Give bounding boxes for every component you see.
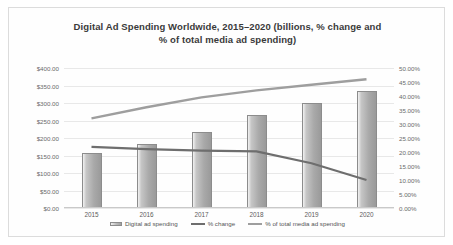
legend-label-percent-change: % change <box>208 220 236 227</box>
chart-container: Digital Ad Spending Worldwide, 2015–2020… <box>8 7 445 237</box>
legend-bar-swatch-icon <box>110 222 122 226</box>
y-axis-right-tick-label: 5.00% <box>399 191 417 198</box>
y-axis-left-tick-label: $300.00 <box>37 100 59 107</box>
y-axis-right-tick-label: 25.00% <box>399 135 420 142</box>
chart-legend: Digital ad spending % change % of total … <box>9 220 446 227</box>
chart-title-line-2: % of total media ad spending) <box>45 33 410 46</box>
y-axis-right-tick-label: 30.00% <box>399 121 420 128</box>
x-axis-tick-label: 2016 <box>139 211 153 218</box>
chart-title-line-1: Digital Ad Spending Worldwide, 2015–2020… <box>45 20 410 33</box>
y-axis-left-tick-label: $0.00 <box>44 205 59 212</box>
legend-item-digital-ad-spending[interactable]: Digital ad spending <box>110 220 178 227</box>
y-axis-left-tick-label: $200.00 <box>37 135 59 142</box>
y-axis-right-tick-label: 45.00% <box>399 79 420 86</box>
line-series-group <box>64 68 394 208</box>
y-axis-left-tick-label: $250.00 <box>37 117 59 124</box>
y-axis-left-tick-label: $150.00 <box>37 152 59 159</box>
line-percent-of-total-media <box>92 79 367 118</box>
plot-area: $0.00$50.00$100.00$150.00$200.00$250.00$… <box>64 68 394 208</box>
x-axis-tick-label: 2017 <box>194 211 208 218</box>
y-axis-right-tick-label: 15.00% <box>399 163 420 170</box>
y-axis-left-tick-label: $400.00 <box>37 65 59 72</box>
y-axis-right-tick-label: 10.00% <box>399 177 420 184</box>
legend-item-percent-of-total-media[interactable]: % of total media ad spending <box>248 220 345 227</box>
legend-line-swatch-icon <box>191 223 205 225</box>
legend-item-percent-change[interactable]: % change <box>191 220 236 227</box>
line-percent-change <box>92 147 367 180</box>
x-axis-baseline <box>64 207 394 208</box>
y-axis-left-tick-label: $100.00 <box>37 170 59 177</box>
x-axis-tick-label: 2015 <box>84 211 98 218</box>
x-axis-tick-label: 2019 <box>304 211 318 218</box>
legend-label-percent-of-total-media: % of total media ad spending <box>265 220 345 227</box>
y-axis-left-tick-label: $350.00 <box>37 82 59 89</box>
x-axis-tick-label: 2020 <box>359 211 373 218</box>
y-axis-right-tick-label: 50.00% <box>399 65 420 72</box>
legend-label-digital-ad-spending: Digital ad spending <box>125 220 178 227</box>
x-axis-tick-label: 2018 <box>249 211 263 218</box>
legend-line-swatch-icon <box>248 223 262 225</box>
y-axis-right-tick-label: 20.00% <box>399 149 420 156</box>
y-axis-right-tick-label: 40.00% <box>399 93 420 100</box>
y-axis-left-tick-label: $50.00 <box>40 187 59 194</box>
gridline <box>64 208 394 209</box>
y-axis-right-tick-label: 0.00% <box>399 205 417 212</box>
chart-title: Digital Ad Spending Worldwide, 2015–2020… <box>45 20 410 46</box>
y-axis-right-tick-label: 35.00% <box>399 107 420 114</box>
